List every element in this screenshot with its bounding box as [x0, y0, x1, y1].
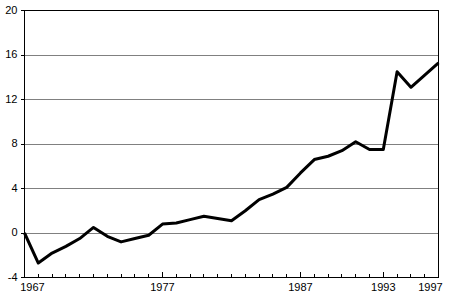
y-axis-tick-labels: -4048121620: [5, 4, 17, 283]
y-tick-label-8: 8: [11, 137, 17, 149]
x-tick-label-1997: 1997: [418, 281, 442, 293]
y-tick-label-4: 4: [11, 182, 17, 194]
y-tick-label--4: -4: [8, 271, 18, 283]
x-tick-label-1967: 1967: [20, 281, 44, 293]
y-tick-label-0: 0: [11, 226, 17, 238]
chart-container: -4048121620 19671977198719931997: [0, 0, 453, 300]
line-chart: -4048121620 19671977198719931997: [0, 0, 453, 300]
gridlines: [25, 11, 439, 234]
x-axis-tick-labels: 19671977198719931997: [20, 281, 442, 293]
y-tick-label-20: 20: [5, 4, 17, 16]
x-tick-label-1977: 1977: [150, 281, 174, 293]
y-tick-label-12: 12: [5, 93, 17, 105]
x-tick-label-1993: 1993: [371, 281, 395, 293]
y-tick-label-16: 16: [5, 48, 17, 60]
x-tick-label-1987: 1987: [288, 281, 312, 293]
